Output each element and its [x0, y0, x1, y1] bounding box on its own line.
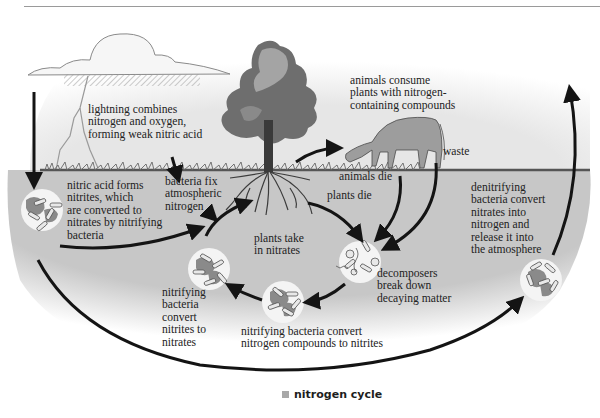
label-bacteria-fix: bacteria fix atmospheric nitrogen: [165, 176, 222, 213]
label-denitrifying: denitrifying bacteria convert nitrates i…: [471, 182, 545, 256]
label-animals-die: animals die: [339, 171, 392, 183]
caption-text: nitrogen cycle: [294, 388, 382, 401]
label-nitric-acid: nitric acid forms nitrites, which are co…: [67, 180, 162, 242]
label-nitrifying-bottom: nitrifying bacteria convert nitrogen com…: [241, 326, 383, 351]
label-animals-consume: animals consume plants with nitrogen- co…: [350, 75, 455, 112]
label-nitrifying-left: nitrifying bacteria convert nitrites to …: [162, 287, 206, 349]
square-bullet-icon: [282, 391, 289, 398]
figure-caption: nitrogen cycle: [282, 388, 382, 401]
bacteria-cluster-denitrifying: [520, 259, 562, 301]
label-lightning: lightning combines nitrogen and oxygen, …: [88, 104, 202, 141]
label-decomposers: decomposers break down decaying matter: [377, 268, 451, 305]
label-plants-die: plants die: [327, 190, 372, 202]
label-plants-take: plants take in nitrates: [254, 233, 304, 258]
bacteria-cluster-nitrifying-bottom: [262, 281, 304, 323]
label-waste: waste: [443, 146, 469, 158]
bacteria-cluster-nitrifying-left: [188, 248, 230, 290]
